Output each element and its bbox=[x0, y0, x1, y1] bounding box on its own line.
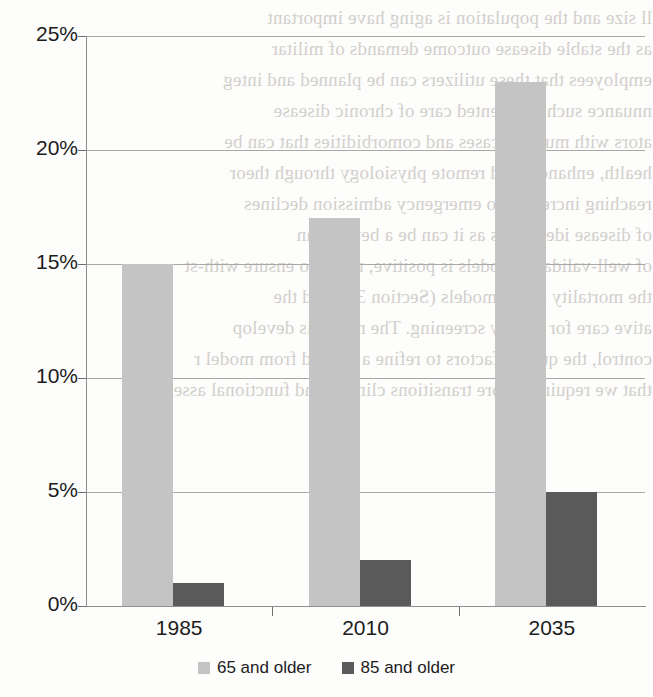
x-axis-line bbox=[86, 606, 646, 607]
y-axis-tick-mark bbox=[78, 378, 86, 379]
y-axis-tick-mark bbox=[78, 606, 86, 607]
y-axis-tick-mark bbox=[78, 36, 86, 37]
y-axis-tick-label: 25% bbox=[12, 22, 78, 46]
legend-item-65-and-older: 65 and older bbox=[198, 658, 312, 678]
bar-2035-65-and-older bbox=[495, 82, 546, 606]
gridline bbox=[86, 36, 645, 37]
legend-label: 85 and older bbox=[361, 658, 456, 678]
y-axis-tick-labels: 0%5%10%15%20%25% bbox=[0, 0, 78, 697]
y-axis-tick-label: 10% bbox=[12, 364, 78, 388]
legend-label: 65 and older bbox=[217, 658, 312, 678]
y-axis-tick-label: 0% bbox=[12, 592, 78, 616]
plot-area bbox=[86, 36, 645, 606]
y-axis-tick-mark bbox=[78, 264, 86, 265]
y-axis-tick-mark bbox=[78, 150, 86, 151]
chart-legend: 65 and older85 and older bbox=[0, 658, 653, 678]
legend-swatch-icon bbox=[342, 662, 354, 674]
y-axis-tick-label: 15% bbox=[12, 250, 78, 274]
bar-2010-85-and-older bbox=[360, 560, 411, 606]
bar-1985-65-and-older bbox=[122, 264, 173, 606]
bar-chart: 0%5%10%15%20%25% 198520102035 bbox=[0, 0, 653, 697]
x-axis-tick-label-1985: 1985 bbox=[86, 616, 272, 640]
y-axis-tick-label: 5% bbox=[12, 478, 78, 502]
scanned-chart-page: ll size and the population is aging have… bbox=[0, 0, 653, 697]
gridline bbox=[86, 150, 645, 151]
legend-item-85-and-older: 85 and older bbox=[342, 658, 456, 678]
legend-swatch-icon bbox=[198, 662, 210, 674]
bar-1985-85-and-older bbox=[173, 583, 224, 606]
y-axis-tick-label: 20% bbox=[12, 136, 78, 160]
x-axis-tick-label-2035: 2035 bbox=[459, 616, 645, 640]
y-axis-line bbox=[86, 36, 87, 607]
x-axis-tick-mark bbox=[459, 607, 460, 616]
x-axis-tick-mark bbox=[272, 607, 273, 616]
y-axis-tick-mark bbox=[78, 492, 86, 493]
bar-2010-65-and-older bbox=[309, 218, 360, 606]
bar-2035-85-and-older bbox=[546, 492, 597, 606]
x-axis-tick-label-2010: 2010 bbox=[272, 616, 458, 640]
